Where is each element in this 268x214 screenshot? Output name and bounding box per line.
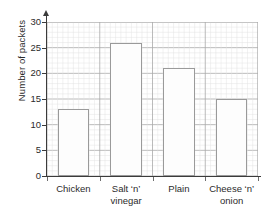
bar [216,99,248,176]
category-label-line: vinegar [100,195,153,207]
bar [58,109,90,176]
bar [163,68,195,176]
x-axis-line [42,176,261,177]
y-axis-tick-label: 20 [19,68,41,78]
y-axis-tick-mark [42,99,47,100]
y-axis-tick-labels: 051015202530 [17,0,41,214]
y-axis-tick-label: 0 [19,171,41,181]
x-axis-tick-mark [153,177,154,181]
plot-area [47,22,258,176]
y-axis-tick-mark [42,176,47,177]
x-axis-tick-mark [100,177,101,181]
y-axis-tick-mark [42,22,47,23]
y-axis-tick-mark [42,48,47,49]
x-axis-category-label: Plain [153,183,206,195]
x-axis-tick-mark [47,177,48,181]
y-axis-tick-label: 5 [19,145,41,155]
y-axis-arrow-icon [43,10,49,16]
x-axis-category-label: Chicken [47,183,100,195]
y-axis-tick-label: 10 [19,120,41,130]
y-axis-tick-mark [42,150,47,151]
category-label-line: Salt ‘n’ [100,183,153,195]
y-axis-tick-label: 15 [19,94,41,104]
category-label-line: Chicken [47,183,100,195]
x-axis-category-label: Cheese ‘n’onion [205,183,258,206]
bar-chart: Number of packets 051015202530 ChickenSa… [0,0,268,214]
y-axis-tick-label: 30 [19,17,41,27]
x-axis-tick-mark [258,177,259,181]
x-axis-category-label: Salt ‘n’vinegar [100,183,153,206]
y-axis-tick-mark [42,73,47,74]
bar [110,43,142,176]
category-label-line: Plain [153,183,206,195]
y-axis-tick-label: 25 [19,43,41,53]
category-label-line: onion [205,195,258,207]
y-axis-tick-mark [42,125,47,126]
bar-series [47,22,258,176]
category-label-line: Cheese ‘n’ [205,183,258,195]
x-axis-tick-mark [205,177,206,181]
